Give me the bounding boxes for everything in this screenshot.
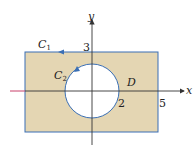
tick-label-5: 5	[159, 97, 166, 110]
c1-label: C1	[38, 38, 51, 52]
y-axis-label: y	[87, 10, 95, 23]
region-d-label: D	[126, 76, 136, 89]
tick-label-2: 2	[118, 97, 125, 110]
tick-label-3: 3	[83, 41, 90, 54]
x-axis-label: x	[186, 84, 193, 97]
region-diagram: y x C1 C2 D 3 2 5	[0, 0, 194, 152]
